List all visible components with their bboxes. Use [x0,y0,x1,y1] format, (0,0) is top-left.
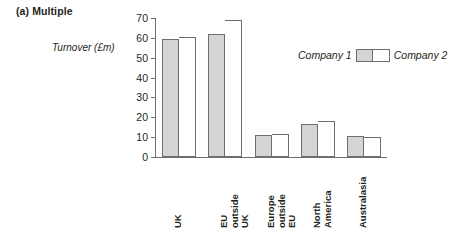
bar-group [208,18,242,157]
y-axis-tick-mark [151,157,156,158]
legend-label-company-2: Company 2 [394,49,448,61]
bar [364,137,381,157]
legend-swatches [356,49,390,62]
bar-group [255,18,289,157]
bar [225,20,242,157]
x-axis-category-label: EU outside UK [219,160,251,228]
plot-area: 010203040506070 [155,18,387,158]
y-axis-tick-label: 70 [136,12,148,24]
y-axis-title: Turnover (£m) [52,42,115,53]
bar [347,136,364,157]
bar-group [162,18,196,157]
y-axis-tick-label: 50 [136,52,148,64]
legend-swatch-company-1 [356,49,373,62]
bar-group [347,18,381,157]
x-axis-category-label: Australasia [358,160,369,228]
x-axis-category-label: UK [173,160,184,228]
bar [208,34,225,157]
bar [179,37,196,157]
y-axis-tick-label: 20 [136,111,148,123]
y-axis-tick-label: 30 [136,91,148,103]
bar [255,135,272,157]
figure: (a) Multiple Turnover (£m) 0102030405060… [0,0,468,232]
bar [318,121,335,157]
bar-group [301,18,335,157]
y-axis-tick-label: 0 [142,151,148,163]
bars-layer [156,18,387,157]
legend-label-company-1: Company 1 [298,49,352,61]
legend: Company 1 Company 2 [298,47,447,63]
legend-swatch-company-2 [373,49,390,62]
x-axis-line [155,157,387,158]
x-axis-category-label: North America [312,160,333,228]
x-axis-category-labels: UKEU outside UKEurope outside EUNorth Am… [156,160,387,232]
panel-caption: (a) Multiple [16,5,73,17]
y-axis-tick-label: 10 [136,131,148,143]
y-axis-tick-label: 60 [136,32,148,44]
bar [162,39,179,157]
y-axis-tick-label: 40 [136,72,148,84]
bar [301,124,318,157]
x-axis-category-label: Europe outside EU [266,160,298,228]
bar [272,134,289,157]
